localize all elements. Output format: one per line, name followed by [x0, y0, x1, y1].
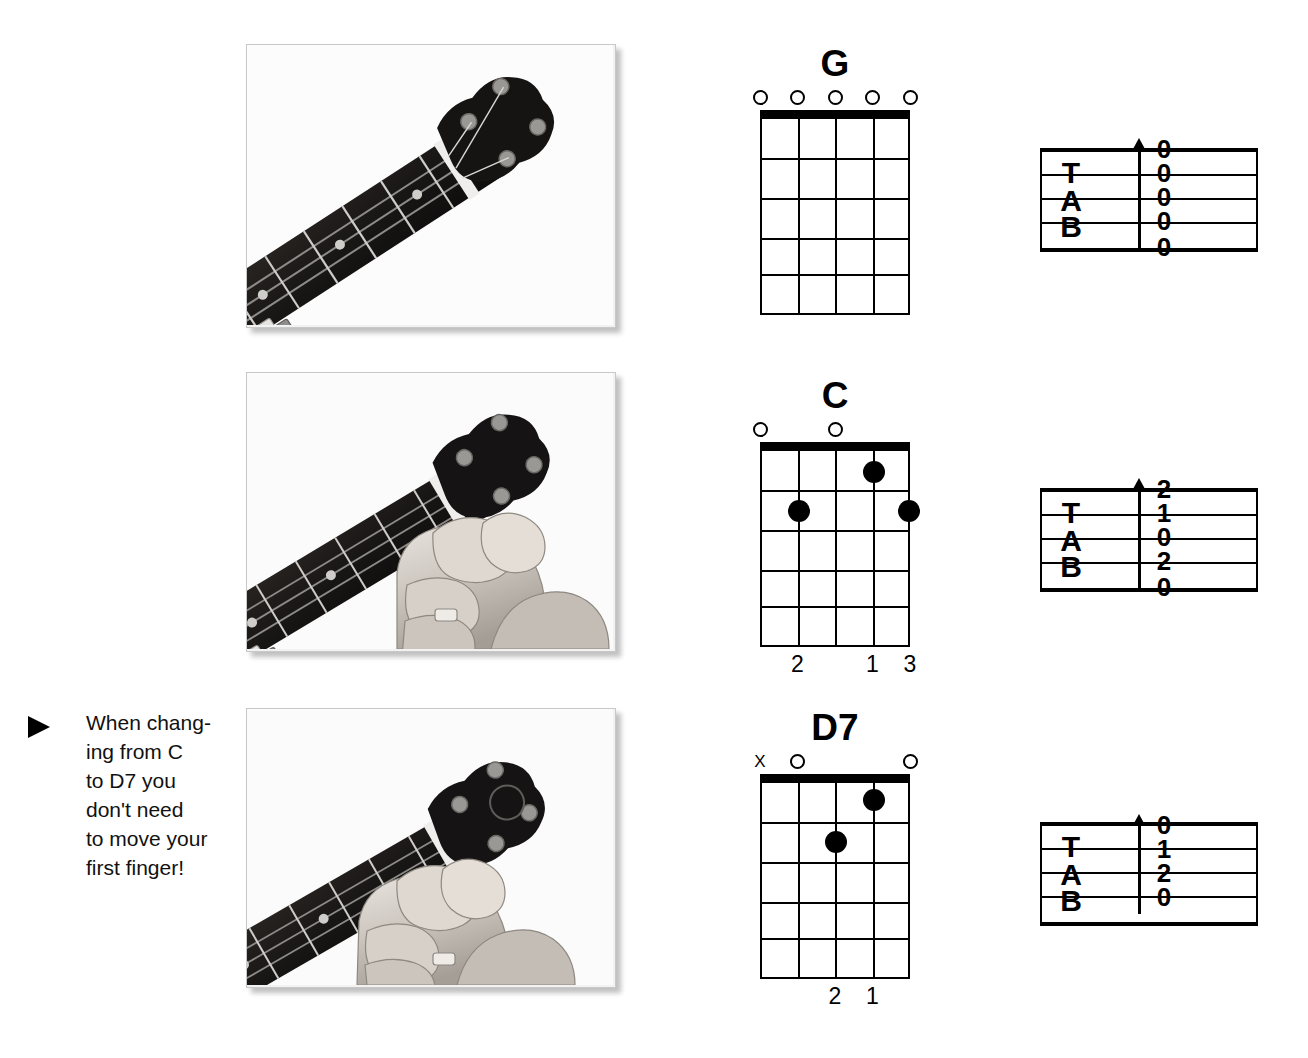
- chord-diagram-g: G: [730, 44, 940, 315]
- string-line-3: [835, 442, 837, 647]
- string-marker-open-4: [865, 90, 880, 105]
- string-markers-row: [760, 86, 910, 110]
- ring: [433, 953, 455, 965]
- finger-number: 2: [825, 983, 845, 1009]
- chord-diagram-d7: D7 X 2 1: [730, 708, 940, 1013]
- tab-number: 0: [1154, 234, 1174, 260]
- string-line-4: [873, 110, 875, 315]
- chord-section-c: C 2 1 3: [0, 330, 1308, 670]
- strum-arrow-up-icon: [1132, 478, 1146, 590]
- banjo-c-chord-image: [247, 373, 613, 649]
- photo-banjo-neck-open: [246, 44, 616, 328]
- string-markers-row: X: [760, 750, 910, 774]
- string-marker-open-2: [790, 90, 805, 105]
- finger-dot: [863, 789, 885, 811]
- fretboard-grid: [760, 110, 910, 315]
- fretboard-grid: [760, 442, 910, 647]
- string-line-5: [908, 442, 910, 647]
- string-marker-open-3: [828, 422, 843, 437]
- chord-title: C: [730, 376, 940, 418]
- tab-letter-b: B: [1054, 886, 1088, 916]
- string-line-5: [908, 110, 910, 315]
- string-line-2: [798, 110, 800, 315]
- string-line-2: [798, 774, 800, 979]
- tab-letter-b: B: [1054, 212, 1088, 242]
- string-markers-row: [760, 418, 910, 442]
- string-marker-open-1: [753, 90, 768, 105]
- tab-letter-b: B: [1054, 552, 1088, 582]
- tab-label: T A B: [1054, 826, 1088, 926]
- string-marker-open-5: [903, 754, 918, 769]
- finger-dot: [863, 461, 885, 483]
- tip-text: When chang- ing from C to D7 you don't n…: [86, 708, 238, 882]
- string-marker-open-3: [828, 90, 843, 105]
- string-line-3: [835, 774, 837, 979]
- tab-number: 0: [1154, 884, 1174, 910]
- finger-dot: [825, 831, 847, 853]
- finger-dot: [898, 500, 920, 522]
- string-line-1: [760, 442, 762, 647]
- string-marker-open-1: [753, 422, 768, 437]
- string-line-2: [798, 442, 800, 647]
- string-line-1: [760, 774, 762, 979]
- chord-title: D7: [730, 708, 940, 750]
- tab-staff-g: T A B 0 0 0 0 0: [1040, 148, 1258, 252]
- tab-label: T A B: [1054, 152, 1088, 252]
- tab-number: 2: [1154, 548, 1174, 574]
- banjo-neck-image: [247, 45, 613, 325]
- chord-diagram-c: C 2 1 3: [730, 376, 940, 681]
- finger-number: 1: [863, 983, 883, 1009]
- finger-dot: [788, 500, 810, 522]
- strum-arrow-up-icon: [1132, 814, 1146, 918]
- tab-number: 0: [1154, 208, 1174, 234]
- tab-staff-c: T A B 2 1 0 2 0: [1040, 488, 1258, 592]
- string-marker-open-5: [903, 90, 918, 105]
- photo-banjo-d7-chord: [246, 708, 616, 988]
- tab-label: T A B: [1054, 492, 1088, 592]
- banjo-d7-chord-image: [247, 709, 613, 985]
- fretboard-grid: [760, 774, 910, 979]
- ring: [435, 609, 457, 621]
- chord-section-g: G T A B: [0, 0, 1308, 360]
- string-marker-muted-1: X: [753, 754, 768, 769]
- strum-arrow-up-icon: [1132, 138, 1146, 250]
- triangle-right-icon: [28, 716, 50, 738]
- string-line-3: [835, 110, 837, 315]
- string-line-1: [760, 110, 762, 315]
- string-marker-open-2: [790, 754, 805, 769]
- chord-title: G: [730, 44, 940, 86]
- tab-staff-d7: T A B 0 1 2 0: [1040, 822, 1258, 926]
- finger-numbers-row: 2 1: [760, 979, 910, 1013]
- photo-banjo-c-chord: [246, 372, 616, 652]
- string-line-5: [908, 774, 910, 979]
- tab-number: 0: [1154, 574, 1174, 600]
